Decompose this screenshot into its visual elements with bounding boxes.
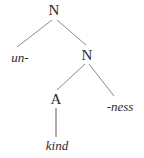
node-inner-noun: N: [82, 48, 93, 63]
branch-root-to-inner-n: [57, 20, 86, 45]
tree-branch-layer: [0, 0, 144, 158]
node-suffix-ness: -ness: [107, 100, 134, 113]
morphological-tree-diagram: N un- N A -ness kind: [0, 0, 144, 158]
node-prefix-un: un-: [11, 51, 28, 64]
branch-root-to-prefix: [17, 20, 52, 47]
node-root-kind: kind: [46, 139, 68, 152]
branch-inner-n-to-suffix: [89, 64, 114, 96]
node-adjective: A: [51, 92, 62, 107]
node-root-noun: N: [49, 3, 60, 18]
branch-inner-n-to-adjective: [57, 64, 85, 90]
